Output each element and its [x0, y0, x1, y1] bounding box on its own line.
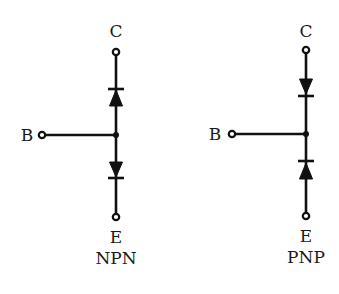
npn-collector-label: C: [109, 21, 122, 41]
pnp-collector-label: C: [299, 21, 312, 41]
npn-collector-terminal: [113, 49, 119, 55]
pnp-lower-diode-icon: [298, 161, 314, 179]
pnp-upper-diode-icon: [298, 79, 314, 96]
npn-model: C B E NPN: [21, 21, 137, 268]
npn-base-terminal: [39, 132, 45, 138]
npn-base-label: B: [21, 125, 34, 145]
pnp-collector-terminal: [303, 47, 309, 53]
pnp-base-label: B: [209, 124, 222, 144]
transistor-diode-model-diagram: C B E NPN C: [0, 0, 339, 294]
pnp-model: C B E PNP: [209, 21, 325, 267]
npn-lower-diode-icon: [108, 162, 124, 178]
pnp-junction-dot: [303, 131, 309, 137]
pnp-emitter-terminal: [303, 213, 309, 219]
npn-type-label: NPN: [95, 248, 136, 268]
pnp-base-terminal: [229, 131, 235, 137]
npn-upper-diode-icon: [108, 89, 124, 106]
pnp-type-label: PNP: [287, 247, 325, 267]
npn-emitter-label: E: [110, 227, 122, 247]
npn-emitter-terminal: [113, 214, 119, 220]
npn-junction-dot: [113, 132, 119, 138]
pnp-emitter-label: E: [300, 226, 312, 246]
